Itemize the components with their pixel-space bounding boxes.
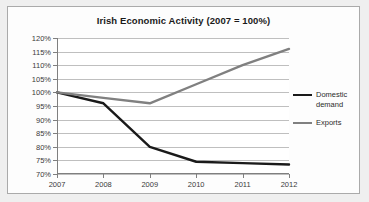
x-axis-tick: [103, 174, 104, 178]
x-axis-tick-label: 2012: [281, 180, 298, 189]
y-axis-tick-label: 80%: [36, 142, 51, 151]
series-line: [57, 92, 289, 164]
x-axis-tick-label: 2010: [188, 180, 205, 189]
y-axis-tick-label: 100%: [32, 88, 51, 97]
gridline: [57, 174, 289, 175]
x-axis-tick-label: 2008: [95, 180, 112, 189]
plot-area: 120%115%110%105%100%95%90%85%80%75%70% 2…: [57, 38, 289, 174]
chart-legend: Domestic demand Exports: [293, 90, 361, 137]
y-axis-tick-label: 115%: [32, 47, 51, 56]
x-axis-tick-label: 2009: [141, 180, 158, 189]
y-axis-tick-label: 120%: [32, 34, 51, 43]
y-axis-tick-label: 75%: [36, 156, 51, 165]
y-axis-tick-label: 105%: [32, 74, 51, 83]
y-axis-tick-label: 95%: [36, 102, 51, 111]
legend-swatch-exports: [293, 122, 312, 124]
y-axis-tick-label: 90%: [36, 115, 51, 124]
legend-label-exports: Exports: [316, 118, 356, 128]
x-axis-tick: [243, 174, 244, 178]
legend-swatch-domestic-demand: [293, 94, 312, 96]
x-axis-tick: [150, 174, 151, 178]
chart-title: Irish Economic Activity (2007 = 100%): [8, 15, 359, 26]
series-line: [57, 49, 289, 103]
x-axis-tick: [196, 174, 197, 178]
series-lines: [57, 38, 289, 174]
y-axis-tick-label: 85%: [36, 129, 51, 138]
x-axis-tick: [289, 174, 290, 178]
y-axis-tick-label: 110%: [32, 61, 51, 70]
legend-item-exports: Exports: [293, 118, 361, 128]
legend-label-domestic-demand: Domestic demand: [316, 90, 356, 109]
x-axis-tick-label: 2007: [49, 180, 66, 189]
chart-card: Irish Economic Activity (2007 = 100%) 12…: [7, 6, 360, 194]
y-axis-tick-label: 70%: [36, 170, 51, 179]
legend-item-domestic-demand: Domestic demand: [293, 90, 361, 109]
x-axis-tick-label: 2011: [235, 180, 251, 189]
x-axis-tick: [57, 174, 58, 178]
